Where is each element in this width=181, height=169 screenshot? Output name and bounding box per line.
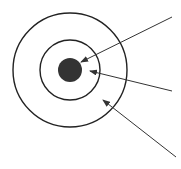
circles-group [13, 13, 127, 127]
core [58, 58, 82, 82]
target-diagram [0, 0, 181, 169]
arrow-to-inner-ring [90, 71, 172, 91]
arrow-to-outer-ring [103, 100, 176, 157]
arrow-to-core [81, 17, 172, 62]
diagram-svg [0, 0, 181, 169]
